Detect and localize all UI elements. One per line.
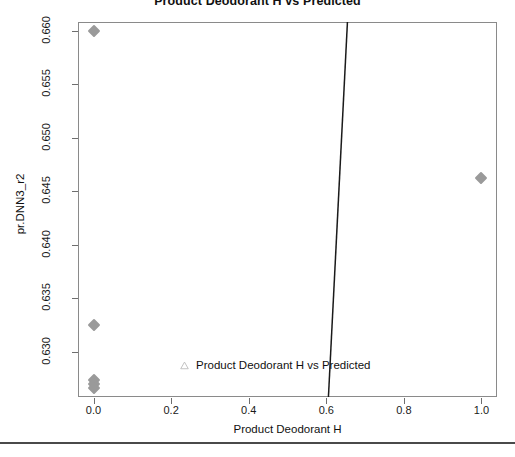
triangle-open-icon — [180, 361, 189, 370]
y-tick-mark — [72, 138, 78, 139]
y-tick-label: 0.645 — [40, 170, 52, 210]
y-tick-mark — [72, 84, 78, 85]
y-tick-mark — [72, 31, 78, 32]
y-tick-label: 0.650 — [40, 117, 52, 157]
plot-area — [78, 22, 497, 397]
legend-entry-label: Product Deodorant H vs Predicted — [196, 359, 371, 371]
y-tick-label: 0.655 — [40, 63, 52, 103]
y-axis-title: pr.DNN3_r2 — [14, 114, 26, 294]
chart-legend: Product Deodorant H vs Predicted — [180, 359, 371, 371]
y-tick-label: 0.630 — [40, 331, 52, 371]
y-tick-label: 0.635 — [40, 277, 52, 317]
data-point — [87, 24, 100, 37]
y-tick-mark — [72, 245, 78, 246]
data-point — [87, 319, 100, 332]
bottom-separator — [0, 442, 515, 444]
chart-title: Product Deodorant H vs Predicted — [0, 0, 515, 8]
x-tick-label: 0.8 — [384, 404, 424, 416]
x-tick-label: 0.4 — [229, 404, 269, 416]
x-tick-label: 0.6 — [306, 404, 346, 416]
x-tick-label: 0.0 — [74, 404, 114, 416]
y-tick-label: 0.640 — [40, 224, 52, 264]
x-tick-label: 0.2 — [151, 404, 191, 416]
data-point — [475, 172, 488, 185]
y-tick-label: 0.660 — [40, 10, 52, 50]
chart-figure: Product Deodorant H vs Predicted 0.6300.… — [0, 0, 515, 457]
x-tick-label: 1.0 — [461, 404, 501, 416]
y-tick-mark — [72, 298, 78, 299]
y-tick-mark — [72, 191, 78, 192]
x-axis-title: Product Deodorant H — [78, 423, 497, 435]
y-tick-mark — [72, 352, 78, 353]
